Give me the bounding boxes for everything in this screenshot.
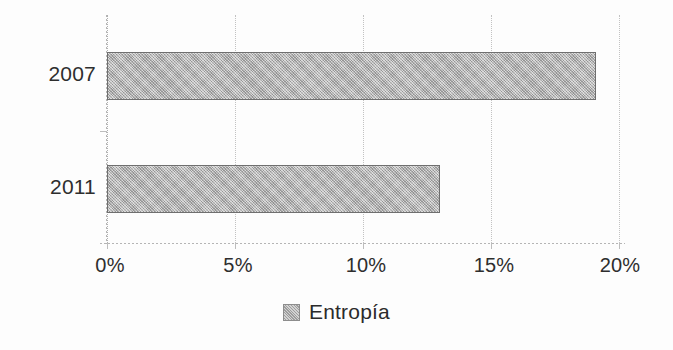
xtick-label-20pct: 20% bbox=[580, 254, 660, 277]
xtick-mark-0pct bbox=[107, 243, 108, 249]
category-axis-labels: 2007 2011 bbox=[0, 0, 96, 350]
legend-label-entropia: Entropía bbox=[309, 300, 390, 324]
xtick-label-10pct: 10% bbox=[326, 254, 406, 277]
gridline-15pct bbox=[491, 15, 492, 243]
xtick-label-0pct: 0% bbox=[70, 254, 150, 277]
legend-swatch-icon bbox=[283, 304, 300, 321]
chart-legend: Entropía bbox=[0, 300, 673, 324]
category-axis-midtick bbox=[100, 131, 107, 132]
xtick-mark-15pct bbox=[491, 243, 492, 249]
category-axis-line bbox=[106, 15, 107, 244]
category-label-2011: 2011 bbox=[8, 175, 96, 199]
bar-2007-entropia bbox=[107, 52, 596, 100]
category-label-2007: 2007 bbox=[8, 62, 96, 86]
xtick-mark-10pct bbox=[363, 243, 364, 249]
gridline-20pct bbox=[619, 15, 620, 243]
xtick-label-5pct: 5% bbox=[198, 254, 278, 277]
bar-2011-entropia bbox=[107, 165, 440, 213]
plot-area bbox=[107, 15, 619, 243]
xtick-label-15pct: 15% bbox=[454, 254, 534, 277]
xtick-mark-5pct bbox=[235, 243, 236, 249]
xtick-mark-20pct bbox=[619, 243, 620, 249]
bar-chart: 2007 2011 0% 5% 10% 15% 20% Entropía bbox=[0, 0, 673, 350]
